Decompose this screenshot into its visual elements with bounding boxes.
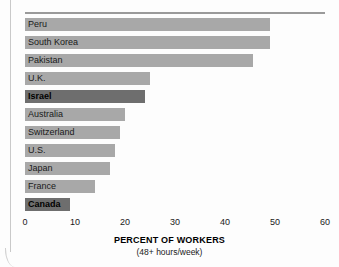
bar	[25, 18, 270, 31]
bar-label: Peru	[28, 18, 47, 31]
bar-row: Australia	[25, 108, 325, 121]
x-tick-label: 60	[320, 217, 330, 227]
x-tick-label: 30	[170, 217, 180, 227]
x-tick-label: 10	[70, 217, 80, 227]
x-tick-label: 50	[270, 217, 280, 227]
x-tick-label: 0	[22, 217, 27, 227]
bar-row: Switzerland	[25, 126, 325, 139]
bar-row: France	[25, 180, 325, 193]
bar-chart-figure: PeruSouth KoreaPakistanU.K.IsraelAustral…	[0, 0, 339, 267]
bar-label: U.K.	[28, 72, 46, 85]
bar-row: Peru	[25, 18, 325, 31]
x-tick-label: 20	[120, 217, 130, 227]
bar-label: Pakistan	[28, 54, 63, 67]
x-axis-line	[25, 215, 325, 216]
bar-row: Japan	[25, 162, 325, 175]
bar-row: Israel	[25, 90, 325, 103]
bar-label: France	[28, 180, 56, 193]
bar-label: U.S.	[28, 144, 46, 157]
plot-area: PeruSouth KoreaPakistanU.K.IsraelAustral…	[25, 18, 325, 216]
x-axis-subtitle: (48+ hours/week)	[0, 247, 339, 257]
bar-label: Japan	[28, 162, 53, 175]
bar-label: Switzerland	[28, 126, 75, 139]
bar-label: South Korea	[28, 36, 78, 49]
bar-label: Australia	[28, 108, 63, 121]
page-frame-left-rule	[10, 0, 11, 252]
x-tick-label: 40	[220, 217, 230, 227]
bar-row: South Korea	[25, 36, 325, 49]
bar-label: Israel	[28, 90, 52, 103]
bar-row: Pakistan	[25, 54, 325, 67]
chart-top-rule	[25, 12, 325, 14]
bar-row: U.K.	[25, 72, 325, 85]
bar-row: U.S.	[25, 144, 325, 157]
bar-row: Canada	[25, 198, 325, 211]
bar-label: Canada	[28, 198, 61, 211]
x-axis-title: PERCENT OF WORKERS	[0, 235, 339, 245]
